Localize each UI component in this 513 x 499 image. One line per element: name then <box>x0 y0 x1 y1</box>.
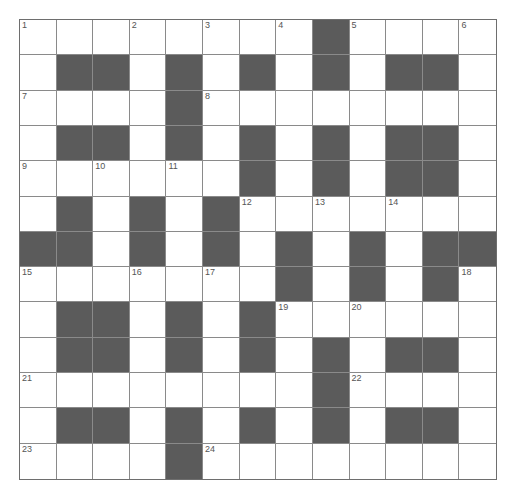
answer-cell[interactable] <box>203 161 240 196</box>
answer-cell[interactable] <box>313 444 350 479</box>
answer-cell[interactable] <box>276 55 313 90</box>
answer-cell[interactable] <box>166 232 203 267</box>
answer-cell[interactable] <box>276 373 313 408</box>
answer-cell[interactable]: 12 <box>240 197 277 232</box>
answer-cell[interactable] <box>240 267 277 302</box>
answer-cell[interactable]: 18 <box>459 267 496 302</box>
answer-cell[interactable] <box>386 444 423 479</box>
answer-cell[interactable] <box>313 232 350 267</box>
answer-cell[interactable]: 6 <box>459 20 496 55</box>
answer-cell[interactable]: 5 <box>350 20 387 55</box>
answer-cell[interactable]: 22 <box>350 373 387 408</box>
answer-cell[interactable]: 9 <box>20 161 57 196</box>
answer-cell[interactable] <box>20 408 57 443</box>
answer-cell[interactable] <box>203 373 240 408</box>
answer-cell[interactable] <box>276 197 313 232</box>
answer-cell[interactable] <box>386 302 423 337</box>
answer-cell[interactable] <box>240 444 277 479</box>
answer-cell[interactable] <box>57 373 94 408</box>
answer-cell[interactable] <box>130 408 167 443</box>
answer-cell[interactable]: 8 <box>203 91 240 126</box>
answer-cell[interactable] <box>93 20 130 55</box>
answer-cell[interactable] <box>203 338 240 373</box>
answer-cell[interactable] <box>459 126 496 161</box>
answer-cell[interactable]: 2 <box>130 20 167 55</box>
answer-cell[interactable] <box>93 197 130 232</box>
answer-cell[interactable] <box>57 20 94 55</box>
answer-cell[interactable] <box>459 338 496 373</box>
answer-cell[interactable] <box>166 197 203 232</box>
answer-cell[interactable] <box>423 91 460 126</box>
answer-cell[interactable] <box>423 302 460 337</box>
answer-cell[interactable]: 15 <box>20 267 57 302</box>
answer-cell[interactable] <box>20 338 57 373</box>
answer-cell[interactable] <box>93 444 130 479</box>
answer-cell[interactable] <box>276 444 313 479</box>
answer-cell[interactable] <box>203 55 240 90</box>
answer-cell[interactable] <box>57 444 94 479</box>
answer-cell[interactable]: 10 <box>93 161 130 196</box>
answer-cell[interactable] <box>386 20 423 55</box>
answer-cell[interactable] <box>20 126 57 161</box>
answer-cell[interactable] <box>240 232 277 267</box>
answer-cell[interactable] <box>350 408 387 443</box>
answer-cell[interactable] <box>313 267 350 302</box>
answer-cell[interactable] <box>350 161 387 196</box>
answer-cell[interactable]: 3 <box>203 20 240 55</box>
answer-cell[interactable] <box>350 444 387 479</box>
answer-cell[interactable]: 7 <box>20 91 57 126</box>
answer-cell[interactable] <box>459 55 496 90</box>
answer-cell[interactable] <box>313 91 350 126</box>
answer-cell[interactable] <box>313 302 350 337</box>
answer-cell[interactable] <box>203 302 240 337</box>
answer-cell[interactable] <box>350 338 387 373</box>
answer-cell[interactable] <box>459 161 496 196</box>
answer-cell[interactable]: 17 <box>203 267 240 302</box>
answer-cell[interactable] <box>276 126 313 161</box>
answer-cell[interactable] <box>276 338 313 373</box>
answer-cell[interactable] <box>130 444 167 479</box>
answer-cell[interactable]: 20 <box>350 302 387 337</box>
answer-cell[interactable] <box>203 408 240 443</box>
answer-cell[interactable] <box>350 91 387 126</box>
answer-cell[interactable]: 16 <box>130 267 167 302</box>
answer-cell[interactable] <box>93 267 130 302</box>
answer-cell[interactable] <box>57 91 94 126</box>
answer-cell[interactable] <box>386 232 423 267</box>
answer-cell[interactable] <box>459 408 496 443</box>
answer-cell[interactable] <box>203 126 240 161</box>
answer-cell[interactable] <box>93 373 130 408</box>
answer-cell[interactable] <box>57 267 94 302</box>
answer-cell[interactable] <box>20 302 57 337</box>
answer-cell[interactable] <box>57 161 94 196</box>
answer-cell[interactable] <box>386 91 423 126</box>
answer-cell[interactable] <box>130 302 167 337</box>
answer-cell[interactable]: 14 <box>386 197 423 232</box>
answer-cell[interactable]: 1 <box>20 20 57 55</box>
answer-cell[interactable] <box>459 197 496 232</box>
answer-cell[interactable] <box>423 197 460 232</box>
answer-cell[interactable]: 23 <box>20 444 57 479</box>
answer-cell[interactable] <box>423 373 460 408</box>
answer-cell[interactable] <box>130 55 167 90</box>
answer-cell[interactable] <box>93 232 130 267</box>
answer-cell[interactable] <box>130 126 167 161</box>
answer-cell[interactable] <box>276 91 313 126</box>
answer-cell[interactable] <box>166 373 203 408</box>
answer-cell[interactable] <box>386 373 423 408</box>
answer-cell[interactable] <box>130 373 167 408</box>
answer-cell[interactable] <box>350 55 387 90</box>
answer-cell[interactable]: 4 <box>276 20 313 55</box>
answer-cell[interactable] <box>423 444 460 479</box>
answer-cell[interactable] <box>240 373 277 408</box>
answer-cell[interactable] <box>276 408 313 443</box>
answer-cell[interactable] <box>459 302 496 337</box>
answer-cell[interactable] <box>350 197 387 232</box>
answer-cell[interactable] <box>240 20 277 55</box>
answer-cell[interactable] <box>459 91 496 126</box>
answer-cell[interactable] <box>130 91 167 126</box>
answer-cell[interactable] <box>20 55 57 90</box>
answer-cell[interactable] <box>459 373 496 408</box>
answer-cell[interactable]: 19 <box>276 302 313 337</box>
answer-cell[interactable] <box>93 91 130 126</box>
